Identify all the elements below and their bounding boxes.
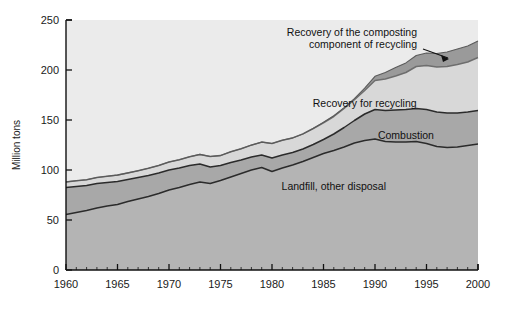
stacked-area-chart: 050100150200250 196019651970197519801985…: [0, 0, 511, 313]
x-tick-label: 1970: [157, 278, 181, 290]
annotation-line-2: component of recycling: [309, 38, 417, 50]
series-label: Combustion: [378, 129, 434, 141]
y-tick-label: 50: [47, 214, 59, 226]
x-tick-label: 1975: [208, 278, 232, 290]
x-tick-label: 1960: [54, 278, 78, 290]
chart-figure: 050100150200250 196019651970197519801985…: [0, 0, 511, 313]
y-tick-label: 250: [41, 14, 59, 26]
y-axis-title: Million tons: [11, 120, 22, 170]
annotation-line-1: Recovery of the composting: [287, 26, 417, 38]
series-label: Landfill, other disposal: [282, 180, 386, 192]
y-tick-label: 100: [41, 164, 59, 176]
x-tick-label: 1980: [260, 278, 284, 290]
x-tick-label: 1995: [414, 278, 438, 290]
x-tick-label: 2000: [466, 278, 490, 290]
y-tick-label: 200: [41, 64, 59, 76]
x-tick-label: 1965: [105, 278, 129, 290]
x-tick-label: 1990: [363, 278, 387, 290]
series-label: Recovery for recycling: [313, 97, 417, 109]
x-tick-label: 1985: [311, 278, 335, 290]
y-tick-label: 0: [53, 264, 59, 276]
y-tick-label: 150: [41, 114, 59, 126]
